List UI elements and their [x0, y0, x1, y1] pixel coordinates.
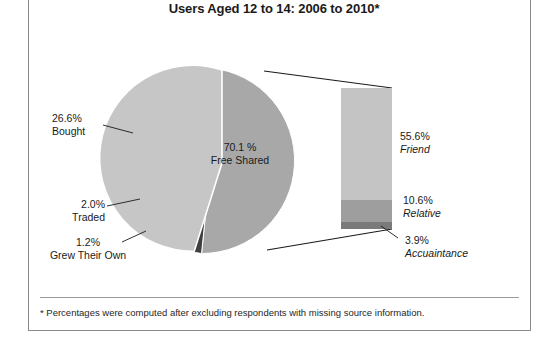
label-acquaintance: 3.9% Accuaintance	[405, 234, 468, 259]
label-free-shared: 70.1 % Free Shared	[196, 141, 284, 166]
chart-figure: Users Aged 12 to 14: 2006 to 2010*	[0, 0, 548, 348]
label-grew-pct: 1.2%	[76, 236, 100, 248]
footnote-separator	[40, 297, 519, 298]
bar-segment-relative	[341, 200, 392, 222]
label-bought-pct: 26.6%	[52, 112, 82, 124]
chart-plot-area	[0, 0, 548, 348]
bar-segment-acquaintance	[341, 222, 392, 229]
label-traded: 2.0% Traded	[43, 198, 105, 223]
label-bought: 26.6% Bought	[52, 112, 85, 137]
label-friend: 55.6% Friend	[400, 130, 430, 155]
breakout-stacked-bar	[341, 88, 392, 229]
label-grew-their-own: 1.2% Grew Their Own	[28, 236, 148, 261]
label-acquaintance-pct: 3.9%	[405, 234, 429, 246]
label-relative-pct: 10.6%	[403, 194, 433, 206]
bar-segment-friend	[341, 88, 392, 200]
label-friend-pct: 55.6%	[400, 130, 430, 142]
label-bought-name: Bought	[52, 125, 85, 138]
label-relative-name: Relative	[403, 207, 441, 220]
label-friend-name: Friend	[400, 143, 430, 156]
label-relative: 10.6% Relative	[403, 194, 441, 219]
label-grew-name: Grew Their Own	[28, 249, 148, 262]
label-traded-pct: 2.0%	[81, 198, 105, 210]
label-acquaintance-name: Accuaintance	[405, 247, 468, 260]
footnote: * Percentages were computed after exclud…	[40, 307, 424, 318]
label-free-name: Free Shared	[196, 154, 284, 167]
label-traded-name: Traded	[43, 211, 105, 224]
label-free-pct: 70.1 %	[224, 141, 257, 153]
